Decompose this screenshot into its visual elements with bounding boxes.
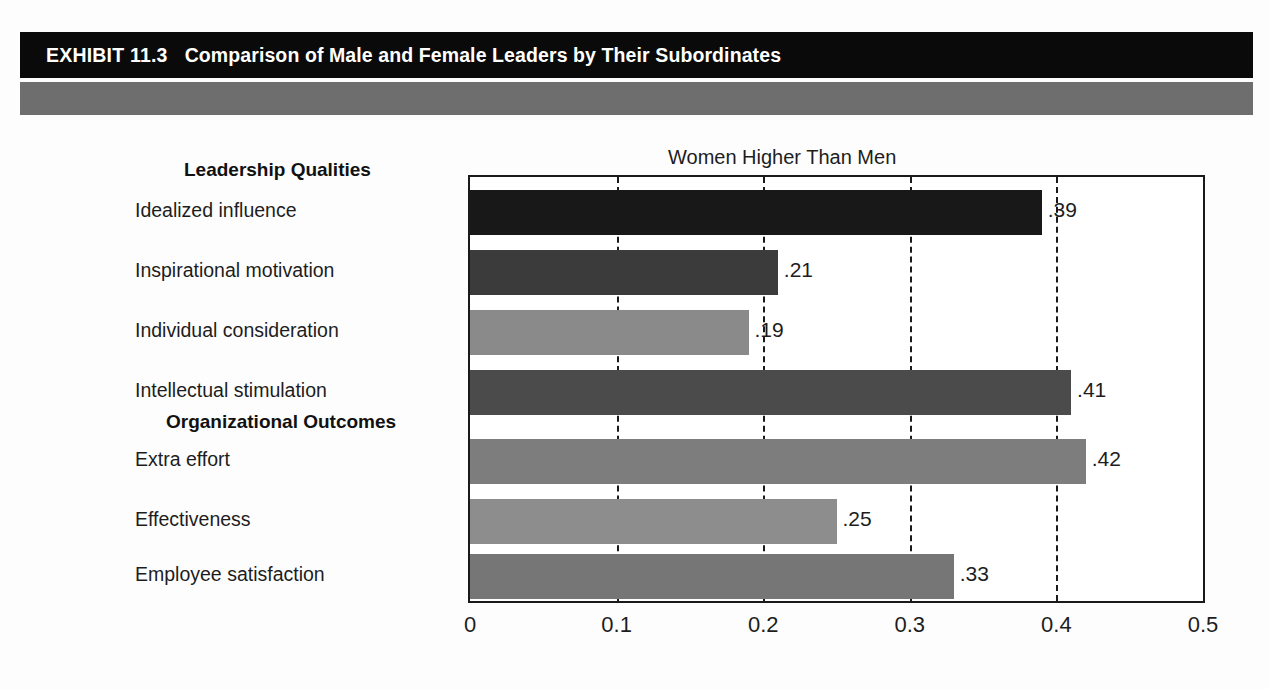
- bar-value-label: .42: [1092, 447, 1121, 471]
- bar: [470, 310, 749, 355]
- bar-value-label: .19: [755, 318, 784, 342]
- group-heading-leadership-qualities: Leadership Qualities: [184, 159, 371, 181]
- bar: [470, 499, 837, 544]
- x-tick-label: 0: [464, 612, 476, 638]
- bar: [470, 370, 1071, 415]
- x-tick-label: 0.4: [1041, 612, 1072, 638]
- x-tick-label: 0.5: [1188, 612, 1219, 638]
- x-tick-label: 0.2: [748, 612, 779, 638]
- category-label: Inspirational motivation: [135, 259, 334, 282]
- category-label: Individual consideration: [135, 319, 339, 342]
- bar: [470, 250, 778, 295]
- bar: [470, 554, 954, 599]
- bar-value-label: .25: [843, 507, 872, 531]
- category-label: Idealized influence: [135, 199, 297, 222]
- chart-figure: Women Higher Than Men Leadership Qualiti…: [0, 0, 1269, 689]
- bar-value-label: .21: [784, 258, 813, 282]
- chart-title: Women Higher Than Men: [668, 146, 896, 169]
- bar: [470, 439, 1086, 484]
- group-heading-organizational-outcomes: Organizational Outcomes: [166, 411, 396, 433]
- bar-value-label: .33: [960, 562, 989, 586]
- category-label: Extra effort: [135, 448, 230, 471]
- category-label: Employee satisfaction: [135, 563, 325, 586]
- category-label: Intellectual stimulation: [135, 379, 327, 402]
- bar: [470, 190, 1042, 235]
- bar-value-label: .39: [1048, 198, 1077, 222]
- bar-value-label: .41: [1077, 378, 1106, 402]
- category-label: Effectiveness: [135, 508, 251, 531]
- x-tick-label: 0.3: [895, 612, 926, 638]
- x-tick-label: 0.1: [601, 612, 632, 638]
